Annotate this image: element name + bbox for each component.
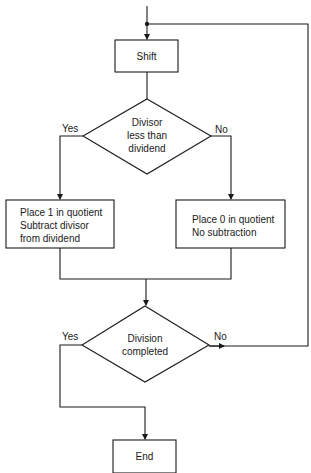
place0-line1: Place 0 in quotient (192, 213, 274, 226)
place1-box: Place 1 in quotient Subtract divisor fro… (20, 206, 102, 245)
decision1-text: Divisor less than dividend (107, 116, 187, 155)
decision2-line1: Division (105, 332, 185, 345)
place1-line2: Subtract divisor (20, 219, 102, 232)
decision1-line2: less than (107, 129, 187, 142)
decision2-line2: completed (105, 345, 185, 358)
decision1-line1: Divisor (107, 116, 187, 129)
junction-dot (145, 22, 148, 25)
d1-yes-label: Yes (62, 122, 78, 135)
decision2-text: Division completed (105, 332, 185, 358)
d2-yes-label: Yes (62, 330, 78, 343)
d2-no-label: No (214, 330, 227, 343)
place0-box: Place 0 in quotient No subtraction (192, 213, 274, 239)
place0-line2: No subtraction (192, 226, 274, 239)
d2-yes-line (60, 345, 145, 439)
end-box: End (113, 450, 176, 463)
d1-yes-line (60, 136, 83, 199)
d1-no-label: No (215, 123, 228, 136)
d1-no-line (211, 136, 231, 199)
decision1-line3: dividend (107, 142, 187, 155)
place1-line1: Place 1 in quotient (20, 206, 102, 219)
place1-line3: from dividend (20, 232, 102, 245)
shift-box: Shift (115, 50, 178, 63)
